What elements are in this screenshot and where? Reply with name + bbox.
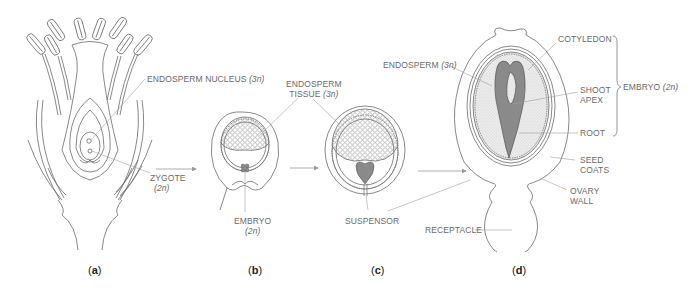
label-seed-coats: SEED COATS bbox=[580, 155, 609, 175]
embryo-sac bbox=[80, 132, 100, 160]
flower-drawing bbox=[25, 16, 154, 250]
zygote-cell bbox=[88, 149, 92, 153]
fruit-d bbox=[454, 28, 569, 252]
seed-development-figure: ENDOSPERM NUCLEUS (3n) ZYGOTE (2n) ENDOS… bbox=[0, 0, 693, 290]
panel-label-b: (b) bbox=[248, 264, 262, 276]
ovule-c bbox=[325, 106, 405, 196]
pistil bbox=[62, 42, 118, 181]
label-root: ROOT bbox=[580, 128, 605, 138]
label-endosperm-d: ENDOSPERM (3n) bbox=[383, 60, 457, 70]
label-shoot-apex: SHOOT APEX bbox=[580, 85, 611, 105]
ovule-outer bbox=[70, 98, 110, 172]
label-receptacle: RECEPTACLE bbox=[425, 225, 482, 235]
stamens bbox=[25, 16, 154, 115]
leaders-a bbox=[91, 79, 150, 173]
label-ovary-wall: OVARY WALL bbox=[570, 186, 599, 206]
label-suspensor: SUSPENSOR bbox=[345, 216, 399, 226]
label-embryo-b: EMBRYO (2n) bbox=[234, 216, 271, 236]
label-endosperm-tissue: ENDOSPERM TISSUE (3n) bbox=[286, 79, 342, 99]
label-embryo-d: EMBRYO (2n) bbox=[623, 82, 678, 92]
label-cotyledon: COTYLEDON bbox=[558, 34, 612, 44]
receptacle-a bbox=[58, 200, 78, 250]
embryo-brace bbox=[613, 36, 621, 136]
panel-label-c: (c) bbox=[371, 264, 384, 276]
panel-label-d: (d) bbox=[512, 264, 526, 276]
endosperm-nucleus bbox=[87, 139, 91, 143]
panel-label-a: (a) bbox=[88, 264, 101, 276]
label-endosperm-nucleus: ENDOSPERM NUCLEUS (3n) bbox=[147, 74, 264, 84]
label-zygote: ZYGOTE (2n) bbox=[150, 173, 186, 193]
